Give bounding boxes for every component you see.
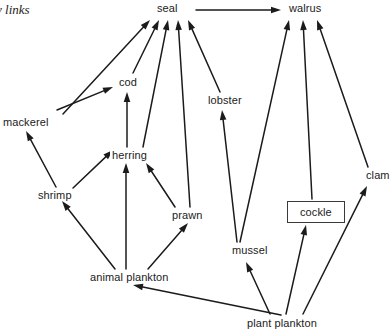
node-label-text: shrimp [38,189,72,201]
node-label-text: prawn [172,209,202,221]
node-mussel: mussel [230,244,269,256]
link-shaft [63,26,145,114]
node-plant_plankton: plant plankton [245,317,319,329]
node-walrus: walrus [287,2,323,14]
link-clam-to-walrus [317,20,368,167]
link-prawn-to-seal [175,20,190,207]
node-animal_plankton: animal plankton [88,271,171,283]
link-cockle-to-walrus [300,20,312,199]
node-mackerel: mackerel [1,116,50,128]
arrow-layer [0,0,391,334]
node-seal: seal [155,2,180,14]
link-animal-plankton-to-prawn [148,223,188,269]
link-arrowhead [246,262,253,272]
link-arrowhead [188,20,195,30]
link-shaft [286,232,304,314]
link-prawn-to-herring [146,163,175,207]
link-arrowhead [300,20,307,30]
link-mackerel-to-seal [63,20,150,114]
link-shaft [178,27,190,207]
link-arrowhead [284,20,290,30]
node-label-text: clam [366,169,390,181]
link-shaft [73,155,108,188]
link-arrowhead [220,110,227,120]
link-herring-to-seal [143,20,169,147]
link-plant-plankton-to-cockle [286,225,307,314]
link-shrimp-to-mackerel [26,131,56,187]
link-arrowhead [146,163,154,173]
link-arrowhead [271,7,281,14]
link-arrowhead [26,131,34,141]
node-label-text: mussel [232,244,267,256]
food-web-diagram: y links sealwalruscodlobstermackerelclam… [0,0,391,334]
node-shrimp: shrimp [36,189,74,201]
node-label-text: cockle [300,206,332,218]
link-arrowhead [175,20,182,30]
link-shaft [303,27,312,199]
link-arrowhead [152,20,159,30]
node-label-text: plant plankton [247,317,317,329]
node-cod: cod [117,76,139,88]
link-arrowhead [317,20,323,31]
link-arrowhead [163,20,169,30]
link-shaft [223,117,237,242]
link-arrowhead [124,92,131,102]
link-mussel-to-lobster [220,110,237,242]
link-shaft [57,90,106,110]
link-shaft [319,27,368,167]
link-animal-plankton-to-shrimp [62,201,115,269]
link-arrowhead [360,186,367,196]
node-lobster: lobster [206,94,244,106]
link-shaft [67,207,115,269]
node-label-text: seal [157,2,178,14]
link-animal-plankton-to-herring [123,163,130,269]
node-herring: herring [110,149,149,161]
link-shaft [240,27,287,242]
node-cockle: cockle [287,201,345,223]
link-lobster-to-seal [188,20,220,92]
link-shaft [191,27,220,92]
link-shaft [150,169,175,207]
node-label-text: cod [119,76,137,88]
node-label-text: mackerel [3,116,48,128]
link-mussel-to-walrus [240,20,290,242]
node-clam: clam [364,169,391,181]
link-shaft [249,269,270,314]
node-label-text: lobster [208,94,242,106]
link-arrowhead [102,87,113,94]
link-arrowhead [123,163,130,173]
link-shrimp-to-herring [73,150,113,188]
link-plant-plankton-to-mussel [246,262,270,314]
node-label-text: walrus [289,2,321,14]
link-shaft [30,138,56,187]
link-arrowhead [133,284,143,290]
link-seal-to-walrus [196,7,281,14]
link-herring-to-cod [124,92,131,147]
link-arrowhead [301,225,307,235]
link-shaft [148,229,183,269]
node-label-text: herring [112,149,147,161]
node-label-text: animal plankton [90,271,169,283]
node-prawn: prawn [170,209,204,221]
